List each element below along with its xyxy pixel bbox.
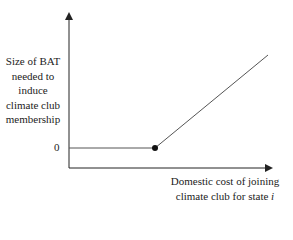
y-label-line: climate club xyxy=(0,98,66,113)
kink-point-marker xyxy=(152,145,158,151)
y-axis-label: Size of BAT needed to induce climate clu… xyxy=(0,54,66,127)
x-label-line: Domestic cost of joining xyxy=(170,174,280,189)
x-label-variable: i xyxy=(271,190,274,202)
y-label-line: membership xyxy=(0,112,66,127)
y-label-line: Size of BAT xyxy=(0,54,66,69)
x-label-line: climate club for state i xyxy=(170,189,280,204)
x-label-text: climate club for state xyxy=(176,190,271,202)
y-tick-zero: 0 xyxy=(54,141,60,153)
y-label-line: induce xyxy=(0,83,66,98)
rising-segment xyxy=(155,55,268,148)
x-axis-label: Domestic cost of joining climate club fo… xyxy=(170,174,280,203)
y-label-line: needed to xyxy=(0,69,66,84)
